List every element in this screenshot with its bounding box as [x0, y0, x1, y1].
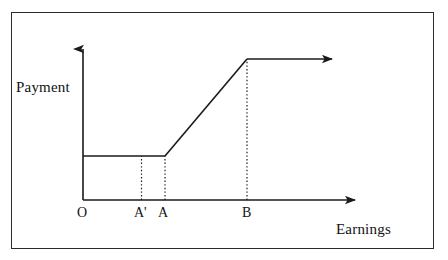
series-rising-segment — [165, 59, 247, 156]
x-tick-label-b: B — [242, 205, 251, 221]
y-axis-label: Payment — [16, 79, 70, 96]
x-axis-label: Earnings — [336, 221, 391, 238]
figure-container: Payment Earnings O A' A B — [0, 0, 448, 260]
x-tick-label-origin: O — [77, 205, 87, 221]
x-tick-label-a: A — [158, 205, 168, 221]
x-tick-label-a-prime: A' — [134, 205, 147, 221]
